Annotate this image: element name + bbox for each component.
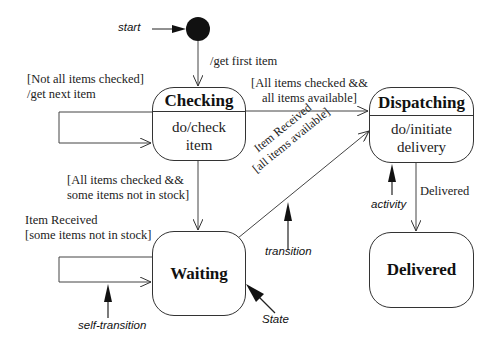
state-checking-activity-line2: item: [153, 136, 245, 154]
activity-pointer-arrow: [388, 164, 396, 195]
state-checking-activity-line1: do/check: [153, 118, 245, 136]
annotation-state: State: [262, 313, 289, 325]
transition-label-checking-self: [Not all items checked] /get next item: [27, 72, 144, 102]
state-pointer-arrow: [246, 284, 275, 313]
state-dispatching-activity-line1: do/initiate: [370, 120, 473, 138]
transition-label-waiting-self-line1: Item Received: [25, 213, 151, 228]
initial-node: [186, 17, 210, 41]
state-dispatching-activity-line2: delivery: [370, 138, 473, 156]
transition-label-waiting-self: Item Received [some items not in stock]: [25, 213, 151, 243]
transition-waiting-self: [59, 257, 152, 282]
state-checking-name: Checking: [153, 88, 245, 111]
start-pointer-arrow: [152, 25, 186, 33]
state-dispatching-name: Dispatching: [370, 88, 473, 115]
state-delivered[interactable]: Delivered: [369, 232, 474, 308]
state-dispatching[interactable]: Dispatching do/initiate delivery: [369, 87, 474, 163]
state-waiting-name: Waiting: [170, 264, 228, 284]
transition-checking-self: [59, 112, 152, 143]
transition-label-get-first-item: /get first item: [210, 54, 277, 69]
annotation-transition: transition: [265, 245, 312, 257]
state-waiting[interactable]: Waiting: [152, 231, 246, 316]
annotation-activity: activity: [371, 198, 406, 210]
state-diagram: start /get first item Checking do/check …: [0, 0, 489, 348]
transition-label-c2w-line1: [All items checked &&: [67, 173, 189, 188]
transition-label-c2d-line1: [All items checked &&: [251, 76, 368, 91]
transition-pointer-arrow: [284, 202, 292, 250]
transition-label-checking-to-waiting: [All items checked && some items not in …: [67, 173, 189, 203]
transition-label-checking-self-line2: /get next item: [27, 87, 144, 102]
transition-label-checking-self-line1: [Not all items checked]: [27, 72, 144, 87]
transition-label-waiting-self-line2: [some items not in stock]: [25, 228, 151, 243]
annotation-self-transition: self-transition: [78, 319, 146, 331]
self-transition-pointer-arrow: [104, 284, 112, 318]
transition-label-c2w-line2: some items not in stock]: [67, 188, 189, 203]
state-checking[interactable]: Checking do/check item: [152, 87, 246, 161]
start-label: start: [118, 21, 140, 33]
transition-label-delivered: Delivered: [420, 184, 469, 199]
state-delivered-name: Delivered: [387, 260, 457, 280]
